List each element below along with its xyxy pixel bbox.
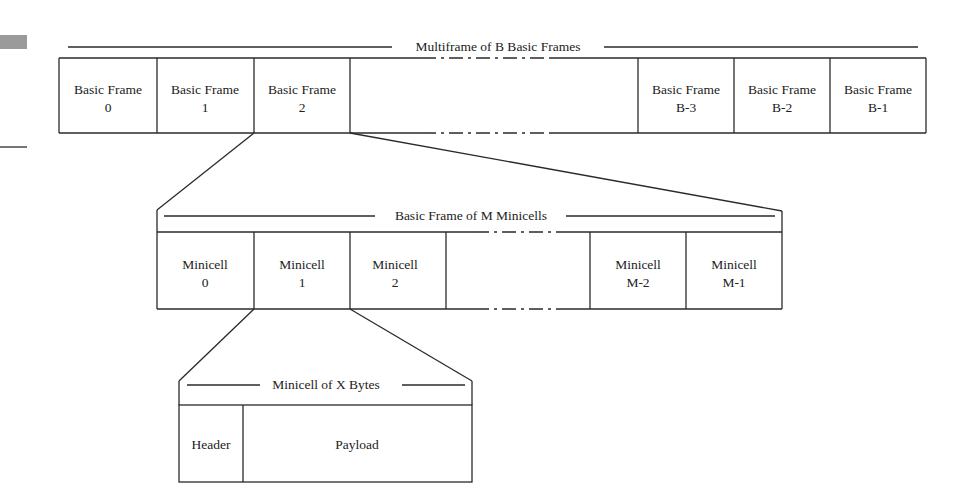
margin-gray-mark <box>0 35 27 49</box>
basic-frame-cell-b-3: Basic Frame B-3 <box>652 82 720 115</box>
minicell-title: Minicell of X Bytes <box>272 377 380 392</box>
svg-text:Basic Frame: Basic Frame <box>171 82 239 97</box>
svg-text:Minicell: Minicell <box>182 257 228 272</box>
svg-text:2: 2 <box>299 100 306 115</box>
svg-text:B-1: B-1 <box>868 100 888 115</box>
minicell-cell-2: Minicell 2 <box>372 257 418 290</box>
minicell-cell-m-1: Minicell M-1 <box>711 257 757 290</box>
minicell-cell-1: Minicell 1 <box>279 257 325 290</box>
basic-frame-cell-2: Basic Frame 2 <box>268 82 336 115</box>
svg-text:2: 2 <box>392 275 399 290</box>
svg-text:1: 1 <box>202 100 209 115</box>
svg-text:Minicell: Minicell <box>279 257 325 272</box>
basic-frame-cell-b-2: Basic Frame B-2 <box>748 82 816 115</box>
svg-text:Basic Frame: Basic Frame <box>652 82 720 97</box>
minicell-cell-0: Minicell 0 <box>182 257 228 290</box>
svg-text:0: 0 <box>105 100 112 115</box>
svg-text:M-1: M-1 <box>722 275 745 290</box>
svg-text:M-2: M-2 <box>626 275 649 290</box>
zoom-connector-right-1 <box>350 133 782 211</box>
header-field: Header <box>192 437 231 452</box>
svg-text:Minicell: Minicell <box>615 257 661 272</box>
multiframe-title: Multiframe of B Basic Frames <box>416 39 581 54</box>
basic-frame-cell-b-1: Basic Frame B-1 <box>844 82 912 115</box>
basic-frame-title: Basic Frame of M Minicells <box>395 208 547 223</box>
basic-frame-cell-1: Basic Frame 1 <box>171 82 239 115</box>
svg-text:Basic Frame: Basic Frame <box>74 82 142 97</box>
basic-frame-cell-0: Basic Frame 0 <box>74 82 142 115</box>
svg-text:B-2: B-2 <box>772 100 792 115</box>
minicell-cell-m-2: Minicell M-2 <box>615 257 661 290</box>
svg-text:Minicell: Minicell <box>711 257 757 272</box>
svg-text:1: 1 <box>299 275 306 290</box>
svg-text:0: 0 <box>202 275 209 290</box>
zoom-connector-left-2 <box>179 309 254 381</box>
svg-text:Minicell: Minicell <box>372 257 418 272</box>
svg-text:Basic Frame: Basic Frame <box>268 82 336 97</box>
svg-text:B-3: B-3 <box>676 100 697 115</box>
zoom-connector-right-2 <box>350 309 472 381</box>
minicell-group: Minicell of X Bytes Header Payload <box>179 377 472 482</box>
frame-hierarchy-diagram: Multiframe of B Basic Frames Basic Frame… <box>0 0 975 504</box>
basic-frame-group: Basic Frame of M Minicells Minicell 0 Mi… <box>157 208 782 309</box>
svg-text:Basic Frame: Basic Frame <box>844 82 912 97</box>
payload-field: Payload <box>335 437 379 452</box>
svg-text:Basic Frame: Basic Frame <box>748 82 816 97</box>
zoom-connector-left-1 <box>157 133 254 210</box>
multiframe-group: Multiframe of B Basic Frames Basic Frame… <box>59 39 926 133</box>
